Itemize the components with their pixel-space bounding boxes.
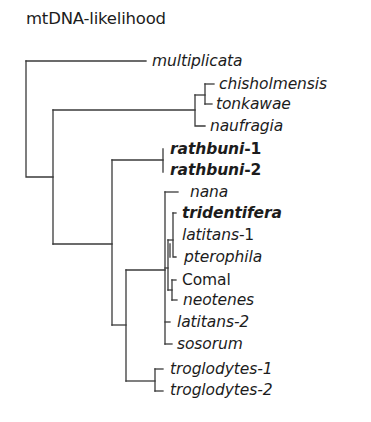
taxon-suffix: -2 [257,381,272,399]
taxon-name: tonkawae [216,95,291,113]
taxon-name: chisholmensis [219,75,327,93]
taxon-tonkawae: tonkawae [216,95,291,113]
taxon-pterophila: pterophila [184,248,262,266]
taxon-suffix: -2 [234,313,249,331]
taxon-name: troglodytes [170,381,257,399]
taxon-name: latitans [177,313,234,331]
taxon-suffix: -2 [244,161,261,179]
taxon-latitans-2: latitans-2 [177,313,249,331]
taxon-name: neotenes [183,291,254,309]
taxon-sosorum: sosorum [177,335,243,353]
taxon-rathbuni-1: rathbuni-1 [170,140,261,158]
taxon-name: multiplicata [152,52,242,70]
taxon-multiplicata: multiplicata [152,52,242,70]
taxon-name: naufragia [210,117,283,135]
taxon-name: latitans [182,226,239,244]
taxon-comal: Comal [182,271,231,289]
taxon-naufragia: naufragia [210,117,283,135]
taxon-name: tridentifera [182,204,282,222]
taxon-name: Comal [182,271,231,289]
taxon-name: rathbuni [170,140,244,158]
taxon-rathbuni-2: rathbuni-2 [170,161,261,179]
taxon-neotenes: neotenes [183,291,254,309]
taxon-troglodytes-2: troglodytes-2 [170,381,272,399]
taxon-chisholmensis: chisholmensis [219,75,327,93]
taxon-tridentifera: tridentifera [182,204,282,222]
taxon-name: sosorum [177,335,243,353]
taxon-suffix: -1 [244,140,261,158]
taxon-suffix: -1 [257,360,272,378]
taxon-name: nana [190,183,228,201]
taxon-troglodytes-1: troglodytes-1 [170,360,272,378]
taxon-latitans-1: latitans-1 [182,226,254,244]
taxon-nana: nana [190,183,228,201]
taxon-name: troglodytes [170,360,257,378]
taxon-name: rathbuni [170,161,244,179]
branch-root [26,61,53,177]
taxon-name: pterophila [184,248,262,266]
branch-node-tridentifera [173,213,176,257]
branch-node-eastern [195,95,205,126]
taxon-suffix: -1 [239,226,254,244]
